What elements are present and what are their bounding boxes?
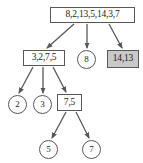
tree-node-label: 8,2,13,5,14,3,7: [65, 10, 119, 20]
tree-node-n-8[interactable]: 8: [77, 50, 96, 69]
tree-edge: [53, 67, 66, 92]
tree-edge: [76, 112, 89, 138]
tree-edges-layer: [0, 0, 143, 163]
tree-node-label: 8: [84, 55, 88, 64]
tree-node-label: 5: [46, 145, 50, 154]
tree-node-n-3[interactable]: 3: [33, 95, 52, 114]
recursion-tree-diagram: 8,2,13,5,14,3,73,2,7,5814,13237,557: [0, 0, 143, 163]
tree-node-n-1413[interactable]: 14,13: [107, 50, 139, 68]
tree-node-n-3275[interactable]: 3,2,7,5: [23, 50, 65, 66]
tree-edge: [52, 112, 66, 138]
tree-node-label: 2: [15, 100, 19, 109]
tree-node-root[interactable]: 8,2,13,5,14,3,7: [50, 7, 135, 23]
tree-node-label: 3: [40, 100, 44, 109]
tree-node-n-75[interactable]: 7,5: [57, 94, 82, 111]
tree-edge: [19, 67, 33, 93]
tree-node-n-2[interactable]: 2: [8, 95, 27, 114]
tree-edge: [109, 24, 122, 48]
tree-node-label: 7: [89, 145, 93, 154]
edge-group: [19, 24, 122, 138]
tree-node-label: 3,2,7,5: [32, 53, 57, 63]
tree-node-n-5[interactable]: 5: [39, 140, 58, 159]
tree-node-label: 14,13: [113, 54, 133, 64]
tree-node-n-7[interactable]: 7: [82, 140, 101, 159]
tree-node-label: 7,5: [64, 98, 75, 108]
tree-edge: [47, 24, 74, 48]
